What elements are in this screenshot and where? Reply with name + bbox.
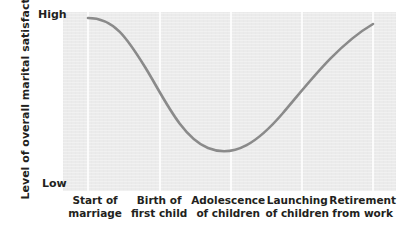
x-label-line1: Retirement xyxy=(329,194,396,206)
x-label-adolescence-of-children: Adolescence of children xyxy=(191,194,265,228)
x-label-line2: first child xyxy=(127,207,191,220)
x-axis-labels: Start of marriage Birth of first child A… xyxy=(63,194,396,228)
x-label-line2: of children xyxy=(191,207,265,220)
x-label-line2: from work xyxy=(329,207,396,220)
x-label-start-of-marriage: Start of marriage xyxy=(63,194,127,228)
marital-satisfaction-chart: High Low Level of overall marital satisf… xyxy=(0,0,414,238)
x-label-birth-of-first-child: Birth of first child xyxy=(127,194,191,228)
y-axis-high-label: High xyxy=(38,9,67,21)
y-axis-low-label: Low xyxy=(42,178,67,190)
x-label-line1: Launching xyxy=(267,194,328,206)
x-label-line2: of children xyxy=(265,207,329,220)
plot-area xyxy=(63,12,396,191)
x-label-line1: Start of xyxy=(72,194,117,206)
x-label-launching-of-children: Launching of children xyxy=(265,194,329,228)
x-label-line2: marriage xyxy=(63,207,127,220)
x-label-line1: Adolescence xyxy=(191,194,265,206)
gridlines xyxy=(88,12,373,191)
plot-svg xyxy=(63,12,396,191)
x-label-line1: Birth of xyxy=(137,194,182,206)
y-axis-title: Level of overall marital satisfaction xyxy=(18,21,34,200)
x-label-retirement-from-work: Retirement from work xyxy=(329,194,396,228)
